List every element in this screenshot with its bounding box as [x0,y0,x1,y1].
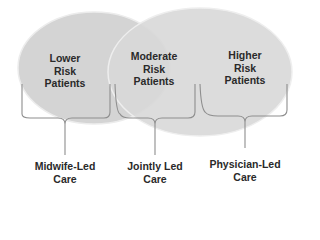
joint-line2: Care [115,173,195,186]
moderate-risk-line1: Moderate [124,50,184,63]
higher-risk-line1: Higher [220,49,270,62]
higher-risk-line2: Risk [220,62,270,75]
lower-risk-line3: Patients [40,77,90,90]
higher-risk-label: Higher Risk Patients [220,49,270,87]
joint-line1: Jointly Led [115,160,195,173]
lower-risk-label: Lower Risk Patients [40,52,90,90]
midwife-led-care-label: Midwife-Led Care [25,160,105,186]
moderate-risk-label: Moderate Risk Patients [124,50,184,88]
moderate-risk-line2: Risk [124,63,184,76]
lower-risk-line1: Lower [40,52,90,65]
physician-led-care-label: Physician-Led Care [200,158,290,184]
physician-line1: Physician-Led [200,158,290,171]
higher-risk-line3: Patients [220,74,270,87]
jointly-led-care-label: Jointly Led Care [115,160,195,186]
physician-line2: Care [200,171,290,184]
moderate-risk-line3: Patients [124,75,184,88]
midwife-line2: Care [25,173,105,186]
midwife-line1: Midwife-Led [25,160,105,173]
lower-risk-line2: Risk [40,65,90,78]
